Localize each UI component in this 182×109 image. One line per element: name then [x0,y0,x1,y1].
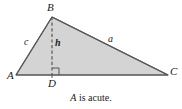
side-label-c: c [24,37,28,47]
vertex-label-d: D [48,78,56,89]
figure-caption: A is acute. [0,92,182,103]
caption-text: is acute. [76,92,111,103]
vertex-label-b: B [47,2,54,13]
vertex-label-c: C [170,66,177,77]
vertex-label-a: A [7,70,14,81]
triangle-abc-shape [16,17,168,75]
altitude-label-h: h [55,38,61,48]
side-label-a: a [108,34,113,44]
geometry-figure: B A C D c h a A is acute. [0,0,182,109]
